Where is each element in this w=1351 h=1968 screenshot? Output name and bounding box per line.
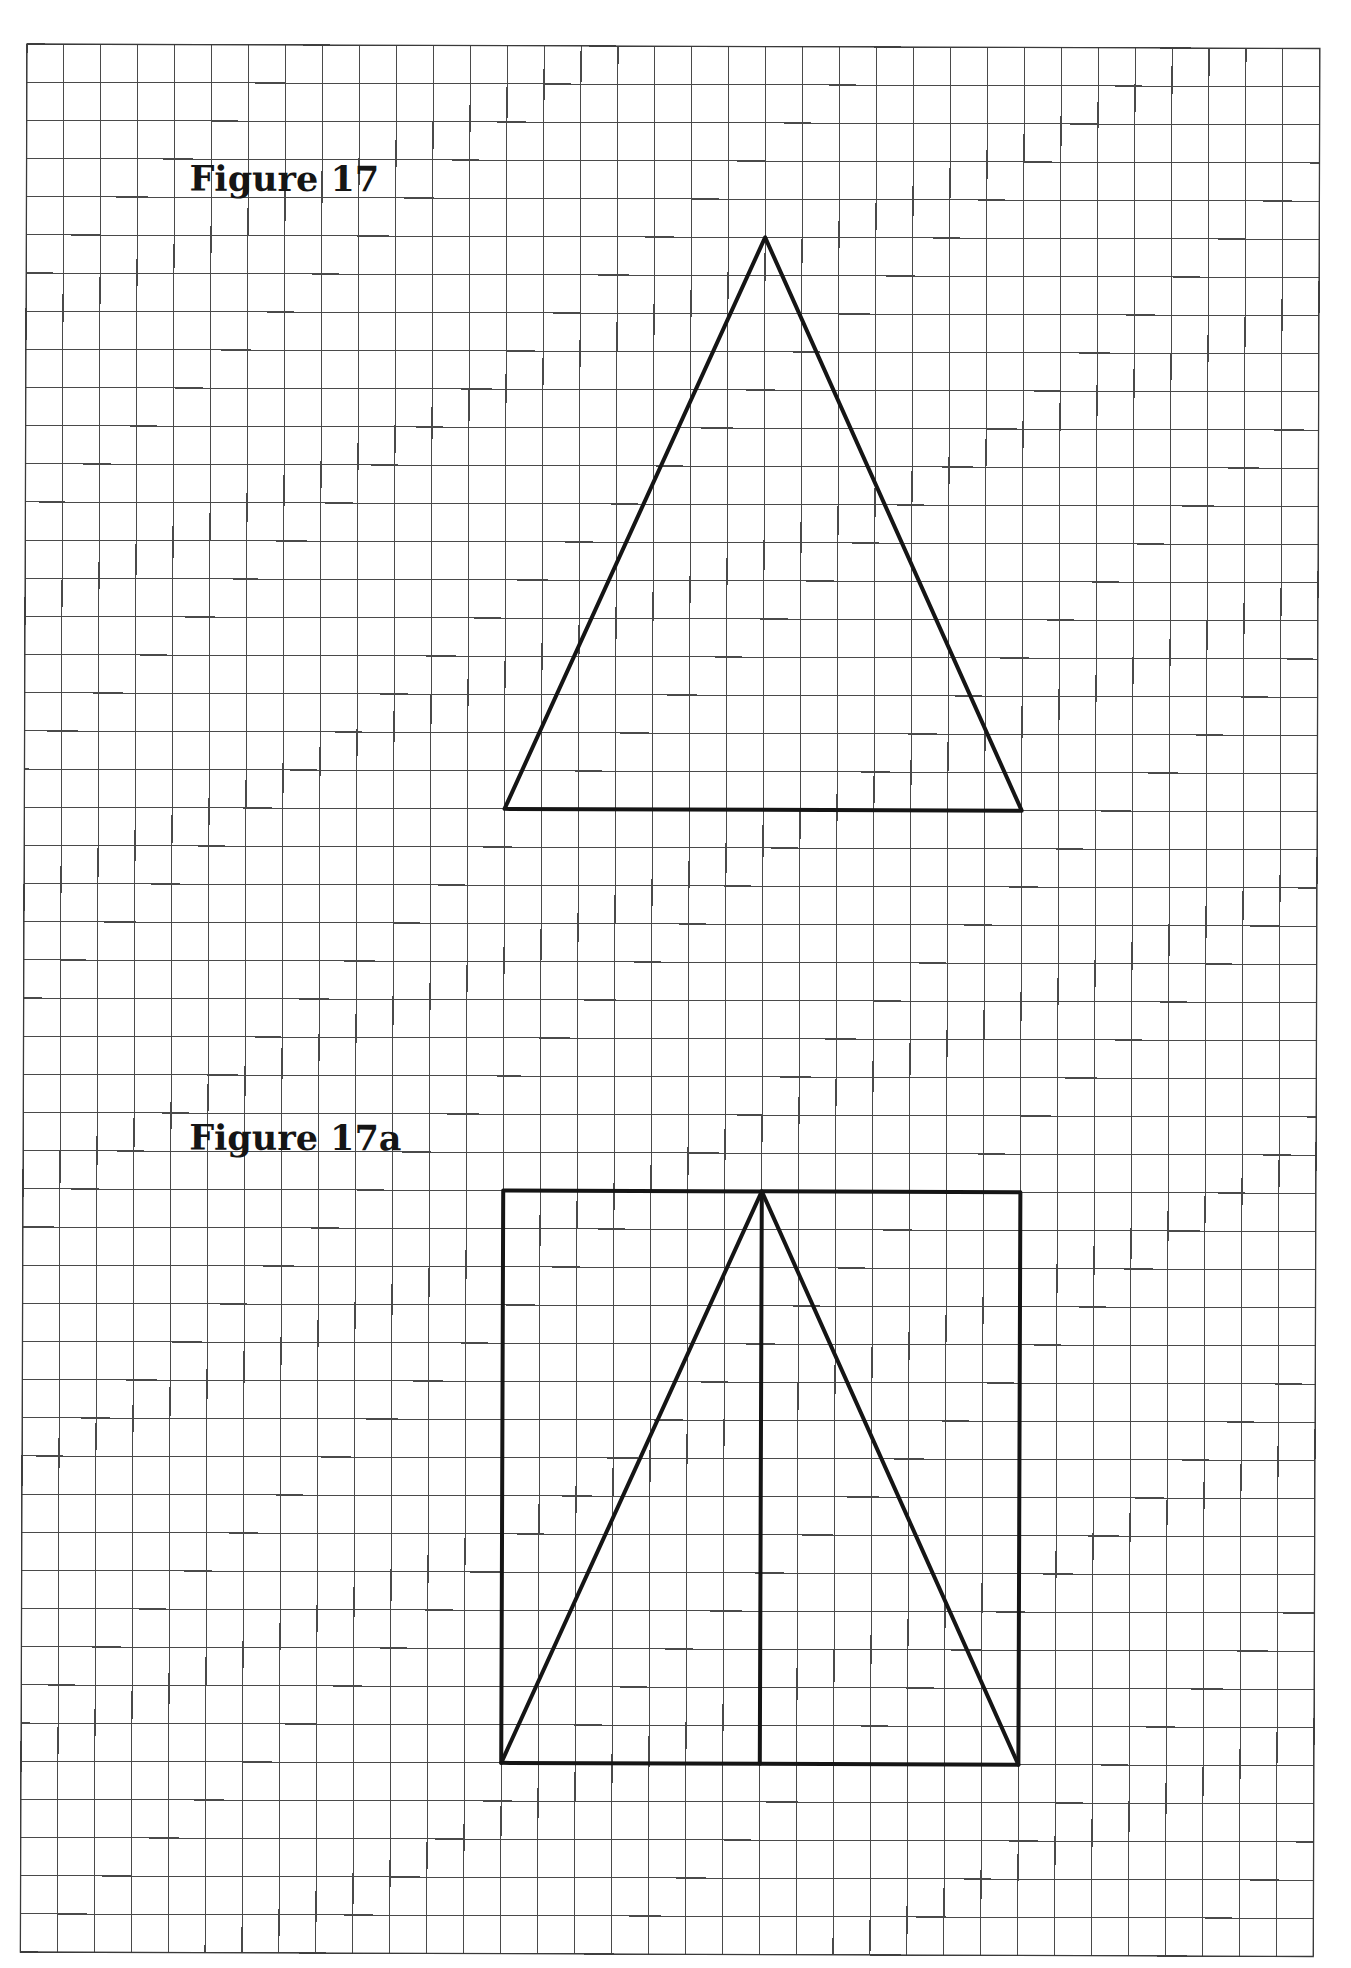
grid-horizontal-line [27, 120, 1320, 125]
grid-horizontal-line [26, 426, 1319, 431]
grid-horizontal-line [25, 616, 1318, 621]
grid-horizontal-line [25, 540, 1318, 545]
grid-horizontal-line [21, 1799, 1314, 1804]
grid-horizontal-line [23, 1303, 1316, 1308]
grid-horizontal-line [22, 1609, 1315, 1614]
grid-horizontal-line [26, 273, 1319, 278]
grid-horizontal-line [24, 884, 1317, 889]
grid-horizontal-line [21, 1647, 1314, 1652]
grid-horizontal-line [22, 1341, 1315, 1346]
rotated-content: Figure 17 Figure 17a [20, 44, 1320, 1957]
grid-horizontal-line [25, 502, 1318, 507]
grid-horizontal-line [22, 1380, 1315, 1385]
grid-horizontal-line [24, 769, 1317, 774]
grid-horizontal-line [25, 731, 1318, 736]
grid-horizontal-line [21, 1685, 1314, 1690]
grid-horizontal-line [24, 845, 1317, 850]
grid-horizontal-line [26, 349, 1319, 354]
grid-horizontal-line [26, 387, 1319, 392]
figure-17a: Figure 17a [187, 1117, 1021, 1765]
grid-horizontal-line [24, 1036, 1317, 1041]
figure-17: Figure 17 [187, 158, 1024, 811]
grid-horizontal-line [26, 235, 1319, 240]
graph-paper-page: Figure 17 Figure 17a [0, 0, 1351, 1968]
grid-horizontal-line [21, 1838, 1314, 1843]
grid-horizontal-line [22, 1532, 1315, 1537]
grid-horizontal-line [22, 1456, 1315, 1461]
grid-horizontal-line [26, 311, 1319, 316]
grid-horizontal-line [23, 1074, 1316, 1079]
grid-horizontal-line [24, 960, 1317, 965]
grid-horizontal-line [21, 1723, 1314, 1728]
grid-horizontal-line [23, 1265, 1316, 1270]
grid-horizontal-line [24, 922, 1317, 927]
grid-horizontal-line [23, 1227, 1316, 1232]
grid-horizontal-line [26, 464, 1319, 469]
grid-horizontal-line [20, 1914, 1313, 1919]
grid-horizontal-line [27, 82, 1320, 87]
grid-horizontal-line [22, 1570, 1315, 1575]
grid-horizontal-line [21, 1876, 1314, 1881]
figure-17a-altitude-line [760, 1191, 762, 1763]
grid-horizontal-line [25, 693, 1318, 698]
grid-horizontal-line [22, 1418, 1315, 1423]
grid-horizontal-line [22, 1494, 1315, 1499]
grid [20, 44, 1320, 1957]
figure-17a-label: Figure 17a [189, 1117, 401, 1159]
figure-17-label: Figure 17 [189, 158, 379, 200]
graph-paper-canvas: Figure 17 Figure 17a [0, 0, 1351, 1968]
grid-horizontal-line [25, 655, 1318, 660]
grid-horizontal-line [25, 578, 1318, 583]
grid-horizontal-line [24, 998, 1317, 1003]
